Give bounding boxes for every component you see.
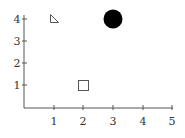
scatter-chart: 1 2 3 4 5 1 2 3 4 [0, 0, 185, 138]
y-tick-label: 2 [14, 57, 21, 70]
y-tick-label: 1 [14, 79, 21, 92]
x-tick-label: 1 [51, 115, 58, 128]
y-tick-label: 4 [14, 13, 21, 26]
x-tick-label: 4 [140, 115, 147, 128]
triangle-marker [51, 15, 59, 23]
circle-marker [104, 10, 123, 29]
square-marker [79, 81, 89, 91]
y-tick-label: 3 [14, 35, 21, 48]
x-tick-label: 2 [80, 115, 87, 128]
x-tick-label: 3 [110, 115, 117, 128]
x-tick-label: 5 [169, 115, 176, 128]
y-ticks: 1 2 3 4 [14, 13, 28, 92]
